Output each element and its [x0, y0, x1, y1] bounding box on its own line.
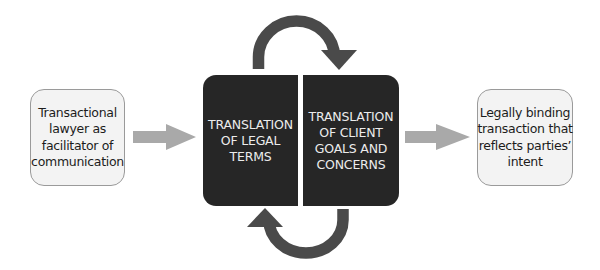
start-node-line: facilitator of: [42, 138, 113, 155]
translation-legal-terms-box: TRANSLATION OF LEGAL TERMS: [203, 75, 298, 206]
translation-left-line: TERMS: [230, 149, 272, 165]
translation-right-line: CONCERNS: [317, 157, 386, 173]
start-node-box: Transactional lawyer as facilitator of c…: [30, 89, 125, 186]
translation-client-goals-box: TRANSLATION OF CLIENT GOALS AND CONCERNS: [303, 75, 399, 206]
arrow-right-icon: [133, 124, 196, 150]
end-node-box: Legally binding transaction that reflect…: [477, 89, 573, 186]
arrow-right-icon: [405, 124, 470, 150]
end-node-line: intent: [507, 154, 542, 171]
diagram-canvas: Transactional lawyer as facilitator of c…: [0, 0, 600, 270]
end-node-line: transaction that: [477, 121, 572, 138]
translation-right-line: GOALS AND: [315, 141, 387, 157]
start-node-line: lawyer as: [49, 121, 106, 138]
curved-arrow-clockwise-icon: [259, 21, 358, 70]
start-node-line: Transactional: [38, 105, 117, 122]
translation-right-line: OF CLIENT: [319, 125, 382, 141]
translation-left-line: TRANSLATION: [208, 117, 293, 133]
end-node-line: reflects parties’: [479, 138, 572, 155]
start-node-line: communication: [31, 154, 124, 171]
curved-arrow-counterclockwise-icon: [247, 208, 343, 253]
translation-right-line: TRANSLATION: [309, 109, 394, 125]
translation-left-line: OF LEGAL: [221, 133, 280, 149]
end-node-line: Legally binding: [480, 105, 570, 122]
